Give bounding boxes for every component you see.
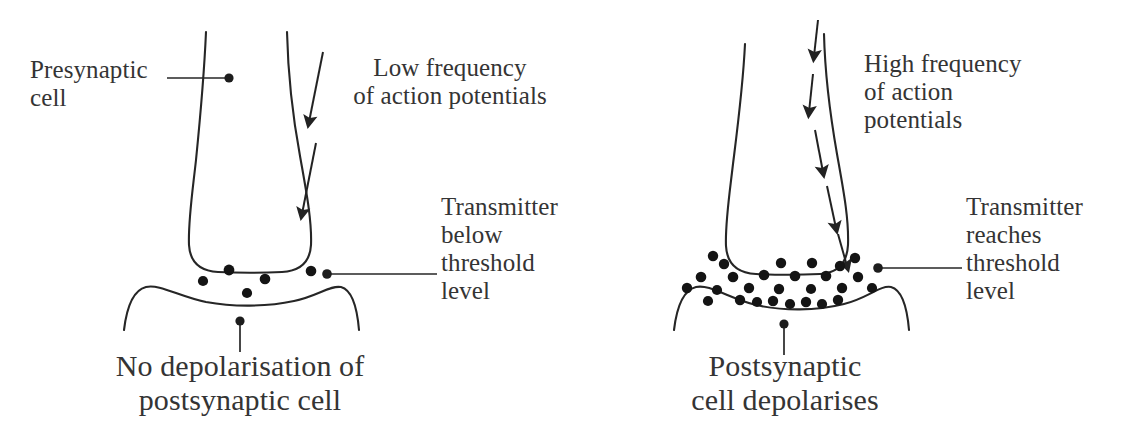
label-high-frequency: High frequency of action potentials xyxy=(864,50,1094,134)
action-potential-arrows-right xyxy=(809,20,847,266)
transmitter-dot-icon xyxy=(833,295,843,305)
presynaptic-terminal-left xyxy=(189,32,311,273)
downward-arrow-icon xyxy=(815,130,823,172)
downward-arrow-icon xyxy=(814,20,818,56)
label-postsynaptic-depolarises: Postsynaptic cell depolarises xyxy=(610,349,960,416)
transmitter-dot-icon xyxy=(821,271,832,282)
transmitter-dot-icon xyxy=(850,253,860,263)
transmitter-dot-icon xyxy=(759,270,770,281)
transmitter-dot-icon xyxy=(712,285,722,295)
transmitter-dot-icon xyxy=(790,271,801,282)
transmitter-dot-icon xyxy=(801,297,811,307)
presynaptic-terminal-right xyxy=(726,34,848,275)
transmitter-dot-icon xyxy=(242,288,252,298)
downward-arrow-icon xyxy=(809,74,813,112)
transmitter-dot-icon xyxy=(708,251,718,261)
label-low-frequency: Low frequency of action potentials xyxy=(316,54,584,110)
transmitter-leader-right xyxy=(873,263,962,273)
transmitter-dot-icon xyxy=(735,295,745,305)
transmitter-dot-icon xyxy=(806,284,816,294)
transmitter-dot-icon xyxy=(703,296,713,306)
transmitter-dot-icon xyxy=(744,283,754,293)
transmitter-dot-icon xyxy=(719,259,729,269)
transmitter-dot-icon xyxy=(785,299,795,309)
transmitter-dot-icon xyxy=(306,266,317,277)
transmitter-dot-icon xyxy=(224,265,235,276)
transmitter-dot-icon xyxy=(867,283,877,293)
transmitter-dot-icon xyxy=(682,283,692,293)
transmitter-dot-icon xyxy=(817,299,827,309)
label-no-depolarisation: No depolarisation of postsynaptic cell xyxy=(30,349,450,416)
transmitter-dot-icon xyxy=(853,272,863,282)
label-transmitter-below-threshold: Transmitter below threshold level xyxy=(441,193,581,305)
transmitter-dot-icon xyxy=(835,261,845,271)
transmitter-dot-icon xyxy=(752,297,762,307)
transmitter-dot-icon xyxy=(776,258,786,268)
transmitter-leader-left xyxy=(322,269,437,279)
transmitter-dots-left xyxy=(198,265,316,299)
downward-arrow-icon xyxy=(827,186,836,228)
synapse-comparison-figure: Presynaptic cell Low frequency of action… xyxy=(0,0,1146,445)
transmitter-dots-right xyxy=(682,251,877,309)
transmitter-dot-icon xyxy=(768,296,778,306)
transmitter-dot-icon xyxy=(198,276,208,286)
transmitter-dot-icon xyxy=(728,272,739,283)
transmitter-dot-icon xyxy=(260,274,271,285)
transmitter-dot-icon xyxy=(696,272,707,283)
transmitter-dot-icon xyxy=(807,258,817,268)
transmitter-dot-icon xyxy=(837,283,847,293)
label-presynaptic-cell: Presynaptic cell xyxy=(30,56,180,112)
outcome-leader-left xyxy=(235,316,244,352)
label-transmitter-reaches-threshold: Transmitter reaches threshold level xyxy=(966,193,1141,305)
transmitter-dot-icon xyxy=(774,284,784,294)
